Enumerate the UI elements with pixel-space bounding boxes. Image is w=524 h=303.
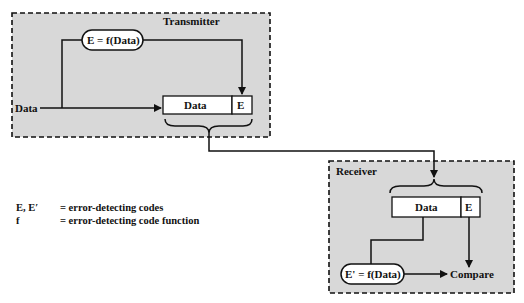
legend-symbol: E, E′ xyxy=(16,203,60,214)
transmitter-data-label: Data xyxy=(184,100,207,111)
receiver-code-label: E xyxy=(465,202,472,213)
transmitter-title: Transmitter xyxy=(163,16,220,27)
diagram-canvas xyxy=(0,0,524,303)
legend-symbol: f xyxy=(16,216,60,227)
legend-item-function: f= error-detecting code function xyxy=(16,216,199,227)
receiver-title: Receiver xyxy=(336,166,377,177)
compare-label: Compare xyxy=(450,269,494,280)
transmitter-panel xyxy=(12,13,270,137)
legend-definition: = error-detecting codes xyxy=(60,202,163,213)
transmitter-function-label: E = f(Data) xyxy=(87,35,140,46)
data-input-label: Data xyxy=(15,103,38,114)
receiver-data-label: Data xyxy=(415,202,438,213)
receiver-function-label: E' = f(Data) xyxy=(345,269,401,280)
legend-item-codes: E, E′= error-detecting codes xyxy=(16,203,163,214)
transmitter-code-label: E xyxy=(237,100,244,111)
legend-definition: = error-detecting code function xyxy=(60,215,199,226)
